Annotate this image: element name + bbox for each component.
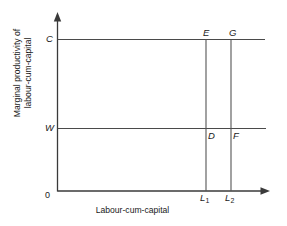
x-axis-arrow-icon [261,187,271,194]
point-label-g: G [229,28,236,38]
y-axis-title-line2: labour-cum-capital [23,13,34,133]
tick-label-l2-subscript: 2 [231,197,235,204]
point-label-d: D [208,131,215,141]
y-axis-arrow-icon [54,12,61,22]
economics-diagram-figure: C W 0 L1 L2 E G D F Marginal productivit… [0,0,287,226]
point-label-e: E [203,28,209,38]
tick-label-l2: L2 [225,193,234,203]
y-axis-title-line1: Marginal productivity of [12,13,23,133]
tick-label-c: C [46,34,53,44]
tick-label-w: W [45,123,54,133]
tick-label-l1: L1 [200,193,209,203]
point-label-f: F [233,131,239,141]
tick-label-l2-text: L [225,192,230,203]
tick-label-l1-subscript: 1 [206,197,210,204]
x-axis-title: Labour-cum-capital [60,205,205,215]
diagram-canvas [0,0,287,226]
tick-label-l1-text: L [200,192,205,203]
origin-label: 0 [45,191,50,200]
y-axis-title: Marginal productivity of labour-cum-capi… [12,13,34,133]
